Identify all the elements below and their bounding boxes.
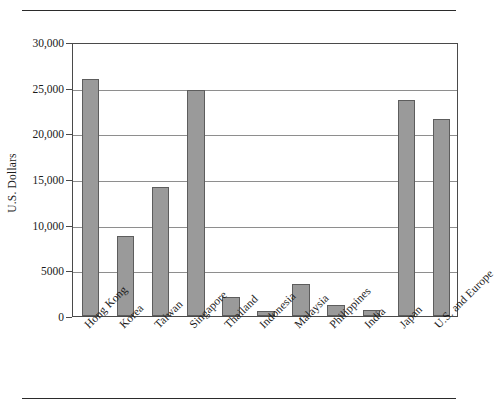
y-axis-tick-label: 25,000: [6, 83, 64, 95]
y-axis-tick-label: 30,000: [6, 37, 64, 49]
bar: [117, 236, 135, 316]
bar: [433, 119, 451, 316]
y-axis-tick-label: 5000: [6, 265, 64, 277]
y-axis-tick-label: 15,000: [6, 174, 64, 186]
y-axis-tick-label: 20,000: [6, 128, 64, 140]
bar: [398, 100, 416, 316]
bar: [152, 187, 170, 316]
plot-area: [72, 43, 458, 317]
bar: [82, 79, 100, 316]
y-axis-tick-label: 10,000: [6, 220, 64, 232]
bar: [187, 90, 205, 316]
top-divider-rule: [22, 10, 456, 11]
gridline: [73, 90, 457, 91]
y-axis-tick-label: 0: [6, 311, 64, 323]
bottom-divider-rule: [22, 398, 456, 399]
y-axis-tick-mark: [66, 317, 72, 318]
